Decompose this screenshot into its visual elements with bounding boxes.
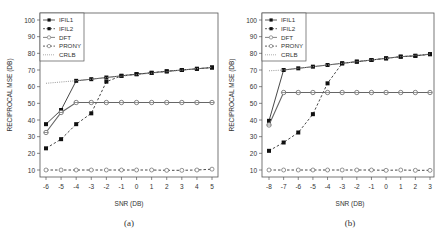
- y-tick-label: 90: [28, 33, 36, 40]
- legend-label: PRONY: [281, 42, 303, 49]
- data-point: [104, 168, 108, 172]
- data-point: [399, 168, 403, 172]
- legend: IFIL1IFIL2DFTPRONYCRLB: [262, 13, 306, 61]
- panel-caption: (a): [124, 218, 134, 228]
- legend-label: DFT: [59, 34, 71, 41]
- data-point: [311, 168, 315, 172]
- x-tick-label: -5: [58, 183, 64, 190]
- legend: IFIL1IFIL2DFTPRONYCRLB: [40, 13, 84, 61]
- x-tick-label: 0: [384, 183, 388, 190]
- y-tick-label: 90: [250, 33, 258, 40]
- figure: 102030405060708090100-6-5-4-3-2-1012345S…: [0, 0, 446, 235]
- data-point: [428, 168, 432, 172]
- legend-label: PRONY: [59, 42, 81, 49]
- legend-label: IFIL1: [59, 16, 74, 23]
- y-tick-label: 70: [28, 67, 36, 74]
- series-prony: [267, 168, 432, 172]
- data-point: [59, 137, 63, 141]
- data-point: [267, 149, 271, 153]
- x-tick-label: -1: [119, 183, 125, 190]
- y-tick-label: 50: [250, 100, 258, 107]
- y-tick-label: 40: [28, 117, 36, 124]
- panel-caption: (b): [345, 218, 356, 228]
- y-tick-label: 20: [28, 150, 36, 157]
- y-tick-label: 30: [250, 133, 258, 140]
- x-tick-label: 4: [195, 183, 199, 190]
- series-ifil2: [44, 66, 214, 151]
- data-point: [165, 168, 169, 172]
- legend-label: DFT: [281, 34, 293, 41]
- y-tick-label: 40: [250, 117, 258, 124]
- data-point: [74, 168, 78, 172]
- data-point: [135, 168, 139, 172]
- series-ifil1: [267, 52, 432, 123]
- data-point: [44, 122, 48, 126]
- x-tick-label: 1: [150, 183, 154, 190]
- data-point: [150, 168, 154, 172]
- data-point: [44, 168, 48, 172]
- x-tick-label: -6: [43, 183, 49, 190]
- data-point: [210, 167, 214, 171]
- data-point: [384, 168, 388, 172]
- data-point: [296, 131, 300, 135]
- x-tick-label: -4: [325, 183, 331, 190]
- x-tick-label: -5: [310, 183, 316, 190]
- y-tick-label: 70: [250, 67, 258, 74]
- data-point: [311, 112, 315, 116]
- y-axis-label: RECIPROCAL MSE (DB): [6, 58, 14, 131]
- x-tick-label: 2: [414, 183, 418, 190]
- y-tick-label: 10: [28, 167, 36, 174]
- data-point: [282, 168, 286, 172]
- x-tick-label: -1: [369, 183, 375, 190]
- legend-label: IFIL1: [281, 16, 296, 23]
- data-point: [44, 146, 48, 150]
- series-dft: [44, 100, 214, 134]
- data-point: [89, 111, 93, 115]
- data-point: [267, 168, 271, 172]
- legend-label: IFIL2: [59, 25, 74, 32]
- x-tick-label: -7: [281, 183, 287, 190]
- x-tick-label: 1: [399, 183, 403, 190]
- data-point: [59, 168, 63, 172]
- data-point: [195, 168, 199, 172]
- data-point: [104, 80, 108, 84]
- x-tick-label: 3: [428, 183, 432, 190]
- y-tick-label: 100: [246, 17, 257, 24]
- data-point: [369, 168, 373, 172]
- series-prony: [44, 167, 214, 172]
- x-tick-label: -2: [354, 183, 360, 190]
- x-tick-label: -6: [295, 183, 301, 190]
- data-point: [428, 52, 432, 56]
- data-point: [355, 168, 359, 172]
- y-tick-label: 80: [250, 50, 258, 57]
- x-tick-label: -3: [88, 183, 94, 190]
- legend-label: CRLB: [281, 51, 298, 58]
- data-point: [296, 168, 300, 172]
- x-tick-label: 3: [180, 183, 184, 190]
- y-tick-label: 100: [24, 17, 35, 24]
- chart-panel-b: 102030405060708090100-8-7-6-5-4-3-2-1012…: [228, 13, 434, 228]
- x-tick-label: 2: [165, 183, 169, 190]
- y-tick-label: 50: [28, 100, 36, 107]
- series-ifil1: [44, 66, 214, 127]
- y-tick-label: 10: [250, 167, 258, 174]
- data-point: [326, 168, 330, 172]
- y-tick-label: 30: [28, 133, 36, 140]
- data-point: [180, 168, 184, 172]
- data-point: [74, 122, 78, 126]
- x-tick-label: 5: [210, 183, 214, 190]
- y-axis-label: RECIPROCAL MSE (DB): [228, 58, 236, 131]
- x-tick-label: -8: [266, 183, 272, 190]
- x-tick-label: -4: [73, 183, 79, 190]
- data-point: [340, 168, 344, 172]
- y-tick-label: 80: [28, 50, 36, 57]
- y-tick-label: 20: [250, 150, 258, 157]
- y-tick-label: 60: [250, 83, 258, 90]
- chart-panel-a: 102030405060708090100-6-5-4-3-2-1012345S…: [6, 13, 218, 228]
- y-tick-label: 60: [28, 83, 36, 90]
- x-tick-label: -2: [103, 183, 109, 190]
- series-dft: [267, 90, 432, 127]
- x-axis-label: SNR (DB): [115, 200, 144, 208]
- data-point: [89, 168, 93, 172]
- legend-label: CRLB: [59, 51, 76, 58]
